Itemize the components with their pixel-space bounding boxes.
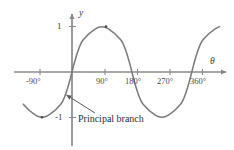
x-tick-label-minus-90: -90°: [26, 77, 41, 86]
marker-minimum-left: [41, 116, 44, 119]
x-tick-label-90: 90°: [96, 77, 108, 86]
principal-branch-leader: [67, 95, 96, 113]
marker-maximum: [105, 25, 108, 28]
chart-canvas: [0, 0, 234, 150]
y-axis-label: y: [79, 9, 83, 19]
principal-branch-annotation: Principal branch: [78, 114, 144, 124]
y-tick-label-one: 1: [57, 22, 62, 31]
theta-axis-label: θ: [210, 57, 215, 67]
x-tick-label-180: 180°: [125, 77, 141, 86]
y-tick-label-minus-one: -1: [55, 113, 63, 122]
x-tick-label-270: 270°: [157, 77, 173, 86]
x-tick-label-360: 360°: [190, 77, 206, 86]
sine-curve-figure: y θ 1 -1 -90° 90° 180° 270° 360° Princip…: [0, 0, 234, 150]
